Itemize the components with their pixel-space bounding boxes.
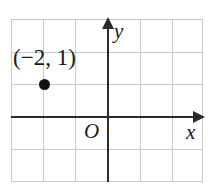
data-point-label: (−2, 1) [13, 45, 76, 70]
gridline-vertical [11, 19, 12, 182]
y-axis-line [107, 26, 109, 182]
gridline-vertical [140, 19, 141, 182]
coordinate-plane-figure: y x O (−2, 1) [0, 0, 222, 191]
y-axis-arrow-icon [102, 17, 114, 29]
gridline-vertical [75, 19, 76, 182]
x-axis-label: x [186, 122, 195, 143]
gridline-vertical [43, 19, 44, 182]
x-axis-line [11, 116, 196, 118]
y-axis-label: y [114, 21, 123, 42]
gridline-vertical [172, 19, 173, 182]
origin-label: O [84, 121, 99, 142]
gridline-vertical [202, 19, 203, 182]
data-point [39, 79, 50, 90]
